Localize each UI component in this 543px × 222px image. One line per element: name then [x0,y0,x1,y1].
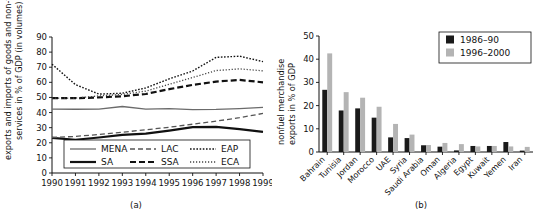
bar-saudi-arabia-1 [421,145,426,152]
bar-syria-1 [405,138,410,152]
x-tick-label: 1998 [229,178,251,188]
bar-yemen-2 [508,146,513,152]
panel-a-legend: MENALACEAPSASSAECA [64,140,250,168]
y-tick-label: 90 [36,32,47,42]
x-tick-label: 1996 [182,178,204,188]
y-tick-label: 10 [303,124,314,134]
legend-label-sa: SA [101,157,114,167]
y-tick-label: 30 [303,77,314,87]
legend-label-2: 1996–2000 [460,48,511,58]
legend-swatch-1 [446,36,454,44]
y-tick-label: 40 [36,108,47,118]
bar-morocco-2 [377,107,382,152]
bar-saudi-arabia-2 [426,145,431,152]
y-tick-label: 20 [303,101,314,111]
x-tick-label: 1994 [135,178,157,188]
bar-algeria-1 [454,150,459,152]
y-tick-label: 10 [36,153,47,163]
legend-label-eap: EAP [221,144,239,154]
y-tick-label: 50 [303,31,314,41]
panel-b-caption: (b) [415,200,427,210]
panel-a-line-chart: exports and imports of goods and non-fac… [0,0,272,222]
bar-jordan-1 [355,108,360,152]
series-line-lac [52,113,263,137]
y-tick-label: 0 [42,168,47,178]
bar-kuwait-2 [492,146,497,152]
x-tick-label: 1995 [158,178,180,188]
legend-label-ssa: SSA [161,157,180,167]
panel-a-series-group [52,56,263,140]
figure-container: exports and imports of goods and non-fac… [0,0,543,222]
bar-oman-1 [438,147,443,152]
legend-label-1: 1986–90 [460,35,499,45]
x-tick-label: 1992 [88,178,110,188]
bar-tunisia-2 [344,92,349,152]
panel-a-ylabel-line1: exports and imports of goods and non-fac… [3,0,13,160]
y-tick-label: 0 [309,147,314,157]
panel-b-bars-group [322,53,529,155]
panel-b-category-labels: BahrainTunisiaJordanMoroccoUAESyriaSaudi… [298,155,524,197]
legend-label-mena: MENA [101,144,128,154]
panel-a-y-axis: 0102030405060708090 [36,32,52,178]
bar-iran-2 [525,147,530,152]
panel-b-bar-chart: nonfuel merchandise exports in % of GDP … [271,0,543,222]
bar-uae-1 [388,137,393,152]
bar-tunisia-1 [339,110,344,152]
panel-b-y-axis: 01020304050 [303,31,319,157]
category-label-iran: Iran [507,155,524,172]
bar-uae-2 [393,124,398,152]
panel-b-legend: 1986–901996–2000 [439,32,531,63]
bar-egypt-1 [470,146,475,152]
x-tick-label: 1993 [112,178,134,188]
y-tick-label: 60 [36,77,47,87]
x-tick-label: 1997 [205,178,227,188]
panel-a-x-axis: 1990199119921993199419951996199719981999 [41,173,272,188]
y-tick-label: 50 [36,92,47,102]
panel-b-ylabel-line2: exports in % of GDP [287,63,297,145]
bar-bahrain-2 [327,53,332,152]
series-line-mena [52,107,263,110]
panel-b-ylabel-line1: nonfuel merchandise [276,59,286,145]
y-tick-label: 20 [36,138,47,148]
bar-algeria-2 [459,144,464,152]
legend-swatch-2 [446,49,454,57]
x-tick-label: 1990 [41,178,63,188]
bar-bahrain-1 [322,90,327,152]
bar-kuwait-1 [487,146,492,152]
legend-label-lac: LAC [161,144,179,154]
bar-syria-2 [410,135,415,152]
legend-label-eca: ECA [221,157,240,167]
x-tick-label: 1999 [252,178,272,188]
bar-jordan-2 [360,98,365,152]
bar-egypt-2 [475,146,480,152]
panel-a-ylabel-line2: services in % of GDP (in volumes) [14,2,24,140]
bar-yemen-1 [503,142,508,152]
y-tick-label: 70 [36,62,47,72]
panel-a-caption: (a) [130,200,142,210]
y-tick-label: 80 [36,47,47,57]
series-line-eap [52,56,263,94]
panel-a-svg: exports and imports of goods and non-fac… [0,0,272,222]
x-tick-label: 1991 [65,178,87,188]
bar-iran-1 [520,151,525,152]
bar-oman-2 [442,143,447,152]
bar-morocco-1 [372,118,377,152]
panel-b-svg: nonfuel merchandise exports in % of GDP … [271,0,543,222]
y-tick-label: 40 [303,54,314,64]
y-tick-label: 30 [36,123,47,133]
